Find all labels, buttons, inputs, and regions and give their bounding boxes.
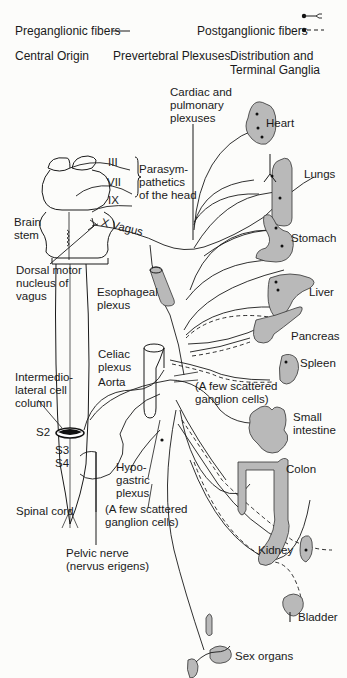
organ-label-colon: Colon: [286, 463, 316, 476]
label-cn-ix: IX: [108, 194, 119, 207]
legend-preganglionic-label: Preganglionic fibers: [15, 24, 120, 38]
label-s3: S3: [55, 444, 69, 457]
label-esophageal-plexus: Esophageal plexus: [97, 286, 158, 312]
label-cardiac-pulmonary: Cardiac and pulmonary plexuses: [170, 86, 232, 125]
legend-postganglionic-symbol-fork: [302, 14, 322, 19]
label-parasympathetics-head: Parasym- pathetics of the head: [139, 163, 197, 202]
label-celiac-plexus: Celiac plexus: [98, 348, 131, 374]
label-s4: S4: [55, 457, 69, 470]
spleen-organ: [279, 354, 298, 384]
organ-label-spleen: Spleen: [300, 357, 336, 370]
label-scattered-ganglion-lower: (A few scattered ganglion cells): [105, 503, 187, 529]
label-brain-stem: Brain stem: [14, 216, 41, 242]
aorta: [144, 344, 164, 418]
label-spinal-cord: Spinal cord: [16, 505, 74, 518]
header-distribution: Distribution and Terminal Ganglia: [230, 49, 320, 77]
label-cn-iii: III: [108, 156, 118, 169]
organ-label-kidney: Kidney: [258, 544, 293, 557]
organ-label-small-intestine: Small intestine: [293, 411, 336, 437]
label-intermediolateral-column: Intermedio- lateral cell column: [15, 371, 73, 410]
legend-postganglionic-label: Postganglionic fibers: [197, 24, 308, 38]
organ-label-liver: Liver: [309, 286, 334, 299]
label-scattered-ganglion-upper: (A few scattered ganglion cells): [195, 380, 277, 406]
organ-label-sex-organs: Sex organs: [235, 650, 293, 663]
small-intestine-organ: [249, 406, 288, 453]
label-dorsal-motor-nucleus: Dorsal motor nucleus of vagus: [16, 264, 82, 303]
organ-label-bladder: Bladder: [298, 611, 338, 624]
label-aorta: Aorta: [98, 376, 126, 389]
organ-label-heart: Heart: [266, 117, 294, 130]
organ-label-pancreas: Pancreas: [291, 330, 340, 343]
sex-organs-organ: [187, 614, 231, 678]
header-central-origin: Central Origin: [15, 49, 89, 63]
label-pelvic-nerve: Pelvic nerve (nervus erigens): [66, 547, 149, 573]
kidney-organ: [300, 536, 312, 562]
label-hypogastric-plexus: Hypo- gastric plexus: [116, 461, 150, 500]
label-cn-vii: VII: [107, 176, 121, 189]
organ-label-stomach: Stomach: [291, 232, 336, 245]
brain-stem-outline: [40, 156, 115, 264]
organ-label-lungs: Lungs: [304, 168, 335, 181]
label-s2: S2: [36, 426, 50, 439]
header-prevertebral-plexuses: Prevertebral Plexuses: [113, 49, 230, 63]
